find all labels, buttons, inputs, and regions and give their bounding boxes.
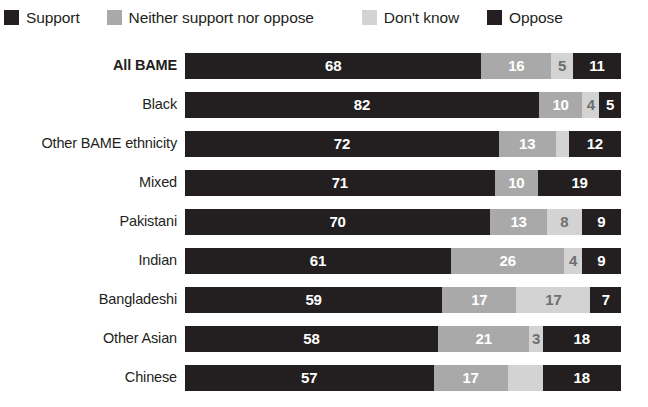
bar-segment-value: 10 — [552, 97, 568, 113]
bar-segment-neither[interactable]: 13 — [490, 209, 547, 235]
row-label: Other BAME ethnicity — [0, 135, 185, 152]
legend-swatch-icon — [362, 10, 377, 25]
bar-segment-oppose[interactable]: 12 — [569, 131, 621, 157]
bar-segment-value: 9 — [597, 214, 605, 230]
chart-plot-area: All BAME6816511Black821045Other BAME eth… — [0, 46, 648, 397]
bar-segment-value: 17 — [545, 292, 561, 308]
bar-segment-oppose[interactable]: 11 — [573, 53, 621, 79]
bar-segment-neither[interactable]: 10 — [539, 92, 582, 118]
chart-row: Chinese571718 — [0, 358, 648, 397]
bar-segment-neither[interactable]: 21 — [438, 326, 530, 352]
bar-segment-support[interactable]: 82 — [185, 92, 539, 118]
row-label: Chinese — [0, 369, 185, 386]
chart-row: Other Asian5821318 — [0, 319, 648, 358]
legend-swatch-icon — [487, 10, 502, 25]
stacked-bar: 5821318 — [185, 326, 621, 352]
bar-segment-value: 21 — [476, 331, 492, 347]
bar-segment-value: 68 — [325, 58, 341, 74]
bar-segment-neither[interactable]: 26 — [451, 248, 564, 274]
bar-segment-neither[interactable]: 17 — [442, 287, 516, 313]
chart-row: Bangladeshi5917177 — [0, 280, 648, 319]
bar-segment-dontknow[interactable] — [508, 365, 543, 391]
bar-segment-value: 19 — [571, 175, 587, 191]
row-label: Black — [0, 96, 185, 113]
legend-label: Don't know — [384, 9, 459, 26]
bar-segment-dontknow[interactable]: 17 — [516, 287, 590, 313]
bar-segment-support[interactable]: 57 — [185, 365, 434, 391]
bar-segment-neither[interactable]: 16 — [481, 53, 551, 79]
bar-segment-oppose[interactable]: 18 — [543, 365, 621, 391]
bar-segment-oppose[interactable]: 9 — [582, 248, 621, 274]
bar-segment-value: 17 — [462, 370, 478, 386]
bar-segment-value: 61 — [310, 253, 326, 269]
bar-segment-support[interactable]: 71 — [185, 170, 495, 196]
bar-segment-support[interactable]: 72 — [185, 131, 499, 157]
bar-segment-dontknow[interactable]: 5 — [551, 53, 573, 79]
bar-segment-value: 12 — [587, 136, 603, 152]
stacked-bar-chart: SupportNeither support nor opposeDon't k… — [0, 0, 648, 407]
bar-segment-oppose[interactable]: 5 — [599, 92, 621, 118]
chart-row: Mixed711019 — [0, 163, 648, 202]
stacked-bar: 571718 — [185, 365, 621, 391]
legend-item-oppose[interactable]: Oppose — [487, 4, 563, 30]
stacked-bar: 5917177 — [185, 287, 621, 313]
bar-segment-support[interactable]: 70 — [185, 209, 490, 235]
legend-item-support[interactable]: Support — [4, 4, 80, 30]
bar-segment-value: 13 — [510, 214, 526, 230]
chart-row: All BAME6816511 — [0, 46, 648, 85]
stacked-bar: 721312 — [185, 131, 621, 157]
bar-segment-value: 72 — [334, 136, 350, 152]
bar-segment-support[interactable]: 68 — [185, 53, 481, 79]
legend-item-neither-support-nor-oppose[interactable]: Neither support nor oppose — [107, 4, 314, 30]
stacked-bar: 821045 — [185, 92, 621, 118]
bar-segment-neither[interactable]: 17 — [434, 365, 508, 391]
bar-segment-support[interactable]: 59 — [185, 287, 442, 313]
bar-segment-oppose[interactable]: 19 — [538, 170, 621, 196]
chart-legend: SupportNeither support nor opposeDon't k… — [0, 4, 648, 30]
stacked-bar: 6816511 — [185, 53, 621, 79]
bar-segment-value: 5 — [558, 58, 566, 74]
bar-segment-value: 8 — [560, 214, 568, 230]
row-label: Mixed — [0, 174, 185, 191]
bar-segment-value: 70 — [329, 214, 345, 230]
bar-segment-value: 16 — [508, 58, 524, 74]
bar-segment-value: 9 — [597, 253, 605, 269]
bar-segment-value: 18 — [574, 331, 590, 347]
bar-segment-dontknow[interactable]: 3 — [529, 326, 542, 352]
bar-segment-dontknow[interactable]: 4 — [582, 92, 599, 118]
chart-row: Pakistani701389 — [0, 202, 648, 241]
row-label: All BAME — [0, 57, 185, 74]
row-label: Indian — [0, 252, 185, 269]
legend-label: Oppose — [509, 9, 563, 26]
bar-segment-value: 5 — [606, 97, 614, 113]
chart-row: Other BAME ethnicity721312 — [0, 124, 648, 163]
legend-label: Neither support nor oppose — [129, 9, 314, 26]
row-label: Other Asian — [0, 330, 185, 347]
bar-segment-dontknow[interactable] — [556, 131, 569, 157]
bar-segment-value: 11 — [589, 58, 604, 74]
bar-segment-neither[interactable]: 13 — [499, 131, 556, 157]
bar-segment-value: 59 — [305, 292, 321, 308]
bar-segment-neither[interactable]: 10 — [495, 170, 539, 196]
legend-swatch-icon — [107, 10, 122, 25]
bar-segment-oppose[interactable]: 18 — [543, 326, 621, 352]
bar-segment-oppose[interactable]: 9 — [582, 209, 621, 235]
stacked-bar: 711019 — [185, 170, 621, 196]
bar-segment-value: 4 — [569, 253, 577, 269]
bar-segment-support[interactable]: 61 — [185, 248, 451, 274]
bar-segment-value: 82 — [354, 97, 370, 113]
bar-segment-dontknow[interactable]: 4 — [564, 248, 581, 274]
bar-segment-value: 17 — [471, 292, 487, 308]
bar-segment-support[interactable]: 58 — [185, 326, 438, 352]
row-label: Pakistani — [0, 213, 185, 230]
stacked-bar: 612649 — [185, 248, 621, 274]
bar-segment-oppose[interactable]: 7 — [590, 287, 621, 313]
chart-row: Indian612649 — [0, 241, 648, 280]
bar-segment-dontknow[interactable]: 8 — [547, 209, 582, 235]
bar-segment-value: 26 — [499, 253, 515, 269]
bar-segment-value: 3 — [532, 331, 540, 347]
bar-segment-value: 18 — [574, 370, 590, 386]
legend-label: Support — [26, 9, 80, 26]
legend-item-don-t-know[interactable]: Don't know — [362, 4, 459, 30]
bar-segment-value: 7 — [602, 292, 610, 308]
